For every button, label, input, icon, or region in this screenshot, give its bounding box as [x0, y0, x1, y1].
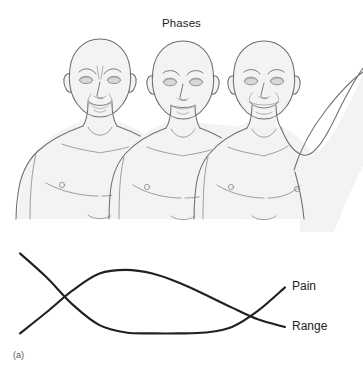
curve-label-pain: Pain	[292, 279, 316, 293]
figure-illustration	[0, 0, 363, 370]
phase-curves	[20, 253, 285, 333]
panel-letter: (a)	[13, 350, 24, 360]
curve-range	[20, 270, 285, 333]
figure-title: Phases	[0, 17, 363, 29]
figure-container: Phases	[0, 0, 363, 370]
curve-label-range: Range	[292, 319, 327, 333]
curve-pain	[20, 253, 285, 333]
